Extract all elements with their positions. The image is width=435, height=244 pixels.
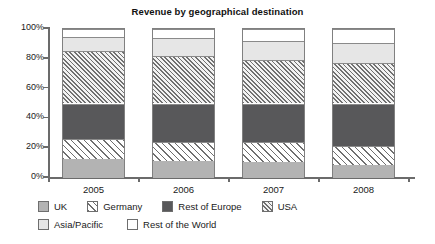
bar-segment-row-2006 (153, 29, 214, 38)
legend-swatch-roe-icon (162, 201, 173, 212)
legend-row-2: Asia/PacificRest of the World (38, 215, 430, 233)
legend-item-de[interactable]: Germany (87, 201, 142, 212)
bar-segment-ap-2007 (243, 41, 304, 60)
bar-segment-row-2007 (243, 29, 304, 41)
bar-segment-uk-2005 (63, 159, 124, 178)
x-axis-label-2005: 2005 (62, 184, 125, 195)
legend-label-de: Germany (103, 201, 142, 212)
x-axis-tick (408, 177, 410, 182)
bar-segment-usa-2008 (333, 63, 394, 104)
plot-area (48, 28, 415, 177)
legend-label-uk: UK (54, 201, 67, 212)
bar-segment-uk-2007 (243, 162, 304, 178)
legend-label-row: Rest of the World (143, 219, 216, 230)
chart-title: Revenue by geographical destination (0, 6, 435, 17)
bar-segment-de-2005 (63, 139, 124, 159)
bar-segment-roe-2008 (333, 104, 394, 146)
bar-segment-ap-2005 (63, 37, 124, 51)
legend-label-ap: Asia/Pacific (54, 219, 103, 230)
legend-swatch-row-icon (127, 219, 138, 230)
bar-segment-de-2006 (153, 142, 214, 161)
bar-segment-uk-2008 (333, 165, 394, 178)
y-axis-tick-label: 100% (4, 22, 44, 32)
legend-item-row[interactable]: Rest of the World (127, 219, 216, 230)
y-axis-tick-label: 80% (4, 52, 44, 62)
bar-segment-usa-2007 (243, 60, 304, 104)
bar-segment-row-2008 (333, 29, 394, 43)
bar-segment-uk-2006 (153, 161, 214, 178)
legend-swatch-de-icon (87, 201, 98, 212)
x-axis-label-2008: 2008 (332, 184, 395, 195)
legend-item-usa[interactable]: USA (262, 201, 298, 212)
x-axis-tick (138, 177, 140, 182)
legend-label-roe: Rest of Europe (178, 201, 241, 212)
bar-segment-ap-2008 (333, 43, 394, 62)
bar-segment-roe-2006 (153, 104, 214, 143)
legend-swatch-uk-icon (38, 201, 49, 212)
x-axis-tick (228, 177, 230, 182)
bar-segment-row-2005 (63, 29, 124, 37)
bar-segment-de-2008 (333, 146, 394, 165)
legend-swatch-usa-icon (262, 201, 273, 212)
bar-segment-usa-2005 (63, 51, 124, 103)
y-axis-tick-label: 40% (4, 111, 44, 121)
legend-row-1: UKGermanyRest of EuropeUSA (38, 197, 430, 215)
stacked-bar-2007 (242, 28, 305, 177)
chart-container: Revenue by geographical destination 0%20… (0, 0, 435, 244)
x-axis-label-2006: 2006 (152, 184, 215, 195)
bar-segment-usa-2006 (153, 56, 214, 104)
chart-legend: UKGermanyRest of EuropeUSA Asia/PacificR… (38, 197, 430, 233)
x-axis-tick (318, 177, 320, 182)
legend-item-roe[interactable]: Rest of Europe (162, 201, 241, 212)
legend-item-ap[interactable]: Asia/Pacific (38, 219, 103, 230)
bar-segment-ap-2006 (153, 38, 214, 56)
stacked-bar-2006 (152, 28, 215, 177)
y-axis-tick-label: 20% (4, 141, 44, 151)
bar-segment-roe-2005 (63, 104, 124, 140)
y-axis-tick-label: 0% (4, 171, 44, 181)
y-axis-tick-label: 60% (4, 82, 44, 92)
legend-swatch-ap-icon (38, 219, 49, 230)
bar-segment-roe-2007 (243, 104, 304, 143)
stacked-bar-2005 (62, 28, 125, 177)
legend-label-usa: USA (278, 201, 298, 212)
bar-segment-de-2007 (243, 142, 304, 161)
stacked-bar-2008 (332, 28, 395, 177)
x-axis-tick (48, 177, 50, 182)
legend-item-uk[interactable]: UK (38, 201, 67, 212)
x-axis-label-2007: 2007 (242, 184, 305, 195)
